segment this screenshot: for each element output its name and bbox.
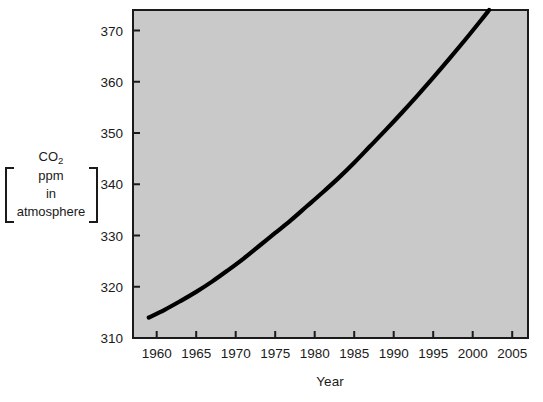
- plot-area-background: [133, 10, 528, 338]
- y-axis-label-co2-text: CO: [39, 149, 59, 164]
- x-axis-tick-label: 2005: [497, 346, 527, 361]
- x-axis-tick-label: 1995: [418, 346, 448, 361]
- left-bracket-icon: [6, 168, 14, 222]
- y-axis-label-line-atmosphere: atmosphere: [17, 204, 86, 219]
- x-axis-tick-label: 1965: [181, 346, 211, 361]
- x-axis-tick-label: 1970: [221, 346, 251, 361]
- y-axis-tick-label: 320: [100, 280, 123, 295]
- y-axis-tick-label: 370: [100, 24, 123, 39]
- x-axis-tick-label: 1985: [339, 346, 369, 361]
- right-bracket-icon: [89, 168, 97, 222]
- y-axis-label-line-ppm: ppm: [38, 168, 63, 183]
- y-axis-tick-label: 330: [100, 229, 123, 244]
- x-axis-tick-label: 1975: [260, 346, 290, 361]
- y-axis-tick-label: 340: [100, 177, 123, 192]
- y-axis-label-line-in: in: [46, 186, 56, 201]
- y-axis-label-line-co2: CO2: [39, 149, 64, 166]
- y-axis-label-group: CO2 ppm in atmosphere: [6, 149, 97, 222]
- co2-chart-figure: 310320330340350360370 196019651970197519…: [0, 0, 543, 402]
- x-axis-title: Year: [316, 374, 344, 389]
- x-axis-tick-label: 1990: [379, 346, 409, 361]
- y-axis-tick-label: 350: [100, 126, 123, 141]
- y-axis-tick-label: 360: [100, 75, 123, 90]
- x-axis-tick-label: 1980: [300, 346, 330, 361]
- x-axis-tick-label: 2000: [458, 346, 488, 361]
- x-axis-tick-label: 1960: [142, 346, 172, 361]
- y-axis-tick-label: 310: [100, 331, 123, 346]
- y-axis-label-co2-subscript: 2: [58, 155, 63, 166]
- chart-svg: 310320330340350360370 196019651970197519…: [0, 0, 543, 402]
